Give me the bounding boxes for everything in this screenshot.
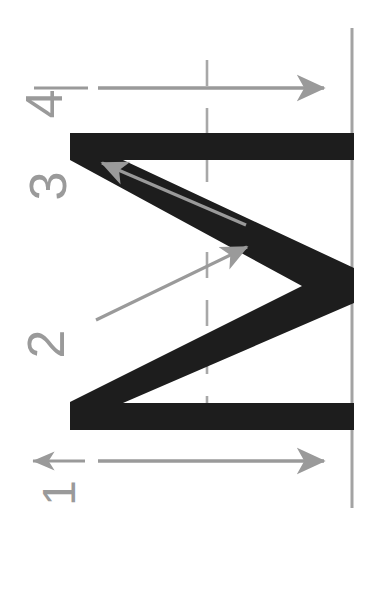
stroke-number-4: 4 <box>18 90 70 119</box>
glyph-zigzag-path <box>70 133 354 430</box>
glyph-zigzag <box>70 133 354 430</box>
stroke-number-3: 3 <box>22 172 74 201</box>
stroke-order-diagram: 1 2 3 4 <box>0 0 367 604</box>
stroke-number-2: 2 <box>20 330 72 359</box>
stroke-2-arrow <box>96 247 247 320</box>
stroke-2-arrow-line <box>96 247 247 320</box>
stroke-number-1: 1 <box>36 480 82 506</box>
